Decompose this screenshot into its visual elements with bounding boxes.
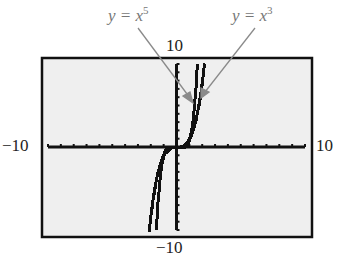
xmax-label: 10 [316, 136, 333, 156]
eq3-exponent: 3 [267, 4, 273, 16]
ymax-label: 10 [166, 36, 183, 56]
eq5-base: y = x [108, 6, 143, 25]
equation-label-x3: y = x3 [232, 4, 273, 26]
equation-label-x5: y = x5 [108, 4, 149, 26]
xmin-label: −10 [2, 136, 29, 156]
ymin-label: −10 [156, 238, 183, 258]
eq3-base: y = x [232, 6, 267, 25]
eq5-exponent: 5 [143, 4, 149, 16]
